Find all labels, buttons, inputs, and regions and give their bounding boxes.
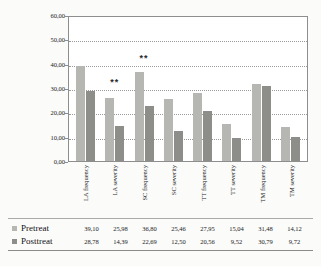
x-label-cell-6: TM frequency bbox=[247, 163, 277, 213]
cell-posttreat-tt-severity: 9,52 bbox=[222, 238, 251, 246]
bar-group-la-frequency bbox=[71, 17, 100, 161]
legend-swatch-pretreat bbox=[12, 226, 17, 231]
x-axis-label-tm-frequency: TM frequency bbox=[258, 165, 265, 202]
x-label-cell-7: TM severity bbox=[277, 163, 307, 213]
x-axis-labels: LA frequency LA severity SC frequency SC… bbox=[68, 163, 308, 213]
plot-area: 60,00 50,00 40,00 30,00 20,00 10,00 0,00 bbox=[0, 0, 321, 214]
cell-pretreat-la-frequency: 39,10 bbox=[77, 225, 106, 233]
bar-group-la-severity: ** bbox=[100, 17, 129, 161]
cell-posttreat-tm-severity: 9,72 bbox=[280, 238, 309, 246]
cell-posttreat-la-severity: 14,39 bbox=[106, 238, 135, 246]
cell-pretreat-sc-severity: 25,46 bbox=[164, 225, 193, 233]
table-rule-bottom bbox=[8, 250, 313, 251]
chart-figure: 60,00 50,00 40,00 30,00 20,00 10,00 0,00 bbox=[0, 0, 321, 266]
legend-label-pretreat: Pretreat bbox=[21, 223, 77, 234]
legend-swatch-posttreat bbox=[12, 239, 17, 244]
significance-marker-sc-frequency: ** bbox=[140, 55, 149, 61]
bar-posttreat-la-frequency[interactable] bbox=[86, 91, 95, 161]
bar-groups: ** ** bbox=[69, 17, 307, 161]
bar-pretreat-la-severity[interactable] bbox=[105, 98, 114, 161]
bar-group-tm-severity bbox=[276, 17, 305, 161]
bar-pretreat-tm-frequency[interactable] bbox=[252, 84, 261, 161]
x-label-cell-2: SC frequency bbox=[129, 163, 159, 213]
y-tick-label-10: 10,00 bbox=[17, 135, 65, 142]
x-axis-label-la-severity: LA severity bbox=[111, 165, 118, 196]
y-tick-label-0: 0,00 bbox=[17, 159, 65, 166]
x-axis-label-la-frequency: LA frequency bbox=[81, 165, 88, 201]
table-values-posttreat: 28,78 14,39 22,69 12,50 20,56 9,52 30,79… bbox=[77, 238, 313, 246]
bar-pretreat-la-frequency[interactable] bbox=[76, 66, 85, 161]
bar-group-sc-frequency: ** bbox=[130, 17, 159, 161]
bar-pretreat-tt-severity[interactable] bbox=[222, 124, 231, 161]
bar-posttreat-tt-frequency[interactable] bbox=[203, 111, 212, 161]
cell-posttreat-la-frequency: 28,78 bbox=[77, 238, 106, 246]
y-tick-label-40: 40,00 bbox=[17, 62, 65, 69]
x-axis-label-tm-severity: TM severity bbox=[288, 165, 295, 197]
cell-pretreat-la-severity: 25,98 bbox=[106, 225, 135, 233]
x-label-cell-1: LA severity bbox=[100, 163, 130, 213]
x-axis-label-tt-frequency: TT frequency bbox=[199, 165, 206, 200]
cell-pretreat-tt-severity: 15,04 bbox=[222, 225, 251, 233]
y-tick-label-20: 20,00 bbox=[17, 110, 65, 117]
table-values-pretreat: 39,10 25,98 36,80 25,46 27,95 15,04 31,4… bbox=[77, 225, 313, 233]
bar-posttreat-sc-frequency[interactable] bbox=[145, 106, 154, 161]
x-axis-label-sc-severity: SC severity bbox=[170, 165, 177, 195]
bar-pretreat-sc-frequency[interactable] bbox=[135, 72, 144, 162]
legend-swatch-cell-posttreat bbox=[8, 239, 21, 244]
x-axis-label-tt-severity: TT severity bbox=[229, 165, 236, 195]
bar-posttreat-tm-frequency[interactable] bbox=[262, 86, 271, 161]
bar-group-tm-frequency bbox=[247, 17, 276, 161]
table-row-pretreat: Pretreat 39,10 25,98 36,80 25,46 27,95 1… bbox=[8, 222, 313, 235]
bar-group-tt-frequency bbox=[188, 17, 217, 161]
bar-group-tt-severity bbox=[217, 17, 246, 161]
x-axis-label-sc-frequency: SC frequency bbox=[140, 165, 147, 201]
y-tick-label-50: 50,00 bbox=[17, 37, 65, 44]
cell-posttreat-sc-frequency: 22,69 bbox=[135, 238, 164, 246]
plot-frame: ** ** bbox=[68, 16, 308, 162]
bar-posttreat-tm-severity[interactable] bbox=[291, 137, 300, 161]
bar-pretreat-sc-severity[interactable] bbox=[164, 99, 173, 161]
cell-posttreat-tt-frequency: 20,56 bbox=[193, 238, 222, 246]
bar-posttreat-sc-severity[interactable] bbox=[174, 131, 183, 161]
x-label-cell-3: SC severity bbox=[159, 163, 189, 213]
y-tick-label-60: 60,00 bbox=[17, 13, 65, 20]
bar-pretreat-tt-frequency[interactable] bbox=[193, 93, 202, 161]
cell-pretreat-sc-frequency: 36,80 bbox=[135, 225, 164, 233]
cell-posttreat-sc-severity: 12,50 bbox=[164, 238, 193, 246]
bar-posttreat-la-severity[interactable] bbox=[115, 126, 124, 161]
bar-pretreat-tm-severity[interactable] bbox=[281, 127, 290, 161]
cell-posttreat-tm-frequency: 30,79 bbox=[251, 238, 280, 246]
y-tick-label-30: 30,00 bbox=[17, 86, 65, 93]
data-table: Pretreat 39,10 25,98 36,80 25,46 27,95 1… bbox=[8, 218, 313, 251]
legend-label-posttreat: Posttreat bbox=[21, 236, 77, 247]
bar-posttreat-tt-severity[interactable] bbox=[232, 138, 241, 161]
cell-pretreat-tm-severity: 14,12 bbox=[280, 225, 309, 233]
cell-pretreat-tt-frequency: 27,95 bbox=[193, 225, 222, 233]
x-label-cell-0: LA frequency bbox=[70, 163, 100, 213]
x-label-cell-5: TT severity bbox=[218, 163, 248, 213]
bar-group-sc-severity bbox=[159, 17, 188, 161]
legend-swatch-cell-pretreat bbox=[8, 226, 21, 231]
x-label-cell-4: TT frequency bbox=[188, 163, 218, 213]
table-row-posttreat: Posttreat 28,78 14,39 22,69 12,50 20,56 … bbox=[8, 235, 313, 248]
cell-pretreat-tm-frequency: 31,48 bbox=[251, 225, 280, 233]
significance-marker-la-severity: ** bbox=[110, 79, 119, 85]
